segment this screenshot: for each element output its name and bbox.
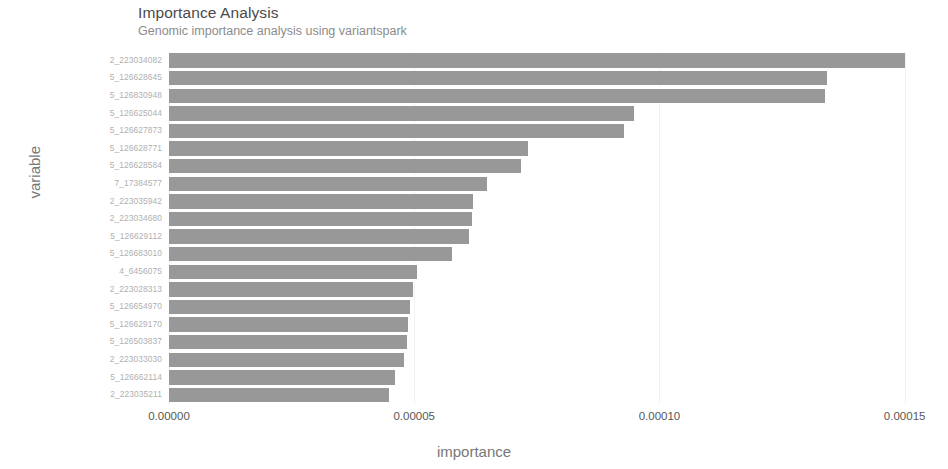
bar[interactable]	[169, 300, 410, 314]
bar[interactable]	[169, 106, 634, 120]
bar[interactable]	[169, 229, 469, 243]
bar[interactable]	[169, 71, 827, 85]
bar-row	[169, 386, 939, 404]
y-axis-tick-label: 4_6456075	[60, 266, 162, 276]
y-axis-tick-label: 5_126629112	[60, 231, 162, 241]
y-axis-tick-label: 5_126625044	[60, 108, 162, 118]
y-axis-tick-label: 5_126629170	[60, 319, 162, 329]
y-axis-tick-label: 2_223028313	[60, 284, 162, 294]
y-axis-tick-label: 5_126627873	[60, 125, 162, 135]
bar[interactable]	[169, 317, 408, 331]
bar-row	[169, 158, 939, 176]
plot-area	[169, 52, 939, 404]
y-axis-tick-label: 5_126628584	[60, 160, 162, 170]
y-axis-tick-label: 5_126628645	[60, 72, 162, 82]
bar-row	[169, 369, 939, 387]
y-axis-tick-label: 5_126662114	[60, 372, 162, 382]
bar-row	[169, 193, 939, 211]
y-axis-tick-label: 5_126683010	[60, 248, 162, 258]
y-axis-tick-label: 7_17384577	[60, 178, 162, 188]
bar-row	[169, 105, 939, 123]
bar[interactable]	[169, 89, 825, 103]
x-axis-title: importance	[0, 443, 948, 460]
y-axis-tick-label: 5_126503837	[60, 336, 162, 346]
x-axis-tick-label: 0.00015	[884, 410, 926, 422]
bar[interactable]	[169, 212, 472, 226]
bar-row	[169, 281, 939, 299]
bar-row	[169, 246, 939, 264]
bar[interactable]	[169, 159, 521, 173]
bar[interactable]	[169, 265, 417, 279]
bar-row	[169, 87, 939, 105]
bar[interactable]	[169, 124, 624, 138]
bar-row	[169, 228, 939, 246]
bar-row	[169, 263, 939, 281]
y-axis-tick-label: 2_223034680	[60, 213, 162, 223]
y-axis-tick-label: 2_223035942	[60, 196, 162, 206]
bar[interactable]	[169, 177, 487, 191]
bar[interactable]	[169, 282, 413, 296]
y-axis-tick-label: 5_126654970	[60, 301, 162, 311]
y-axis-tick-label: 5_126830948	[60, 90, 162, 100]
y-axis-tick-label: 2_223033030	[60, 354, 162, 364]
bar[interactable]	[169, 353, 404, 367]
bar[interactable]	[169, 335, 407, 349]
y-axis-tick-label: 2_223034082	[60, 55, 162, 65]
bar[interactable]	[169, 247, 452, 261]
bar-row	[169, 140, 939, 158]
bar-row	[169, 175, 939, 193]
bar-row	[169, 334, 939, 352]
x-axis-tick-label: 0.00005	[393, 410, 435, 422]
bar-row	[169, 70, 939, 88]
bar-row	[169, 316, 939, 334]
x-axis-tick-label: 0.00010	[639, 410, 681, 422]
importance-analysis-chart: Importance Analysis Genomic importance a…	[0, 0, 948, 469]
y-axis-tick-label: 2_223035211	[60, 389, 162, 399]
bar-row	[169, 122, 939, 140]
page-title: Importance Analysis	[138, 3, 838, 22]
bar-row	[169, 298, 939, 316]
x-axis-tick-label: 0.00000	[148, 410, 190, 422]
bar-row	[169, 351, 939, 369]
chart-subtitle: Genomic importance analysis using varian…	[138, 23, 838, 40]
bar[interactable]	[169, 141, 528, 155]
chart-header: Importance Analysis Genomic importance a…	[138, 3, 838, 40]
bar-row	[169, 52, 939, 70]
bar[interactable]	[169, 194, 473, 208]
y-axis-title: variable	[26, 175, 43, 199]
bar[interactable]	[169, 388, 389, 402]
bar-row	[169, 210, 939, 228]
bar[interactable]	[169, 53, 905, 67]
bar[interactable]	[169, 370, 395, 384]
y-axis-tick-label: 5_126628771	[60, 143, 162, 153]
